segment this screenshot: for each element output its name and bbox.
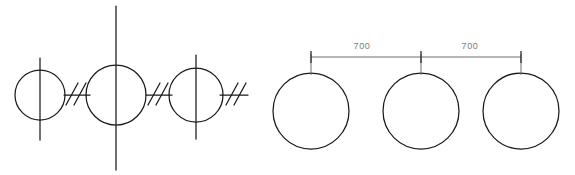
drawing-background xyxy=(0,0,575,175)
dimension-label-1: 700 xyxy=(354,41,371,51)
technical-drawing-canvas: 700 700 xyxy=(0,0,575,175)
dimension-label-2: 700 xyxy=(462,41,479,51)
